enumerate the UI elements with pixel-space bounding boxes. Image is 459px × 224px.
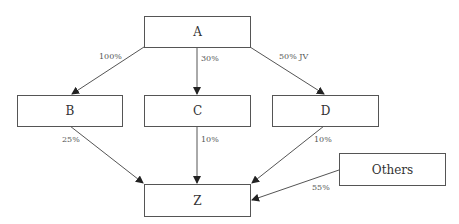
node-a-label: A <box>193 25 202 39</box>
node-d-label: D <box>321 104 331 118</box>
node-others: Others <box>339 153 446 186</box>
edge-label-c-z: 10% <box>201 135 219 144</box>
node-c: C <box>144 95 251 127</box>
node-z-label: Z <box>193 194 201 208</box>
edge-label-a-c: 30% <box>201 54 219 63</box>
node-z: Z <box>144 184 251 217</box>
node-c-label: C <box>193 104 202 118</box>
node-d: D <box>272 95 379 127</box>
edge-label-a-b: 100% <box>99 52 122 61</box>
edge-label-others-z: 55% <box>312 183 330 192</box>
edge-label-a-d: 50% JV <box>279 52 308 61</box>
edge-b-z <box>70 126 143 183</box>
node-a: A <box>144 16 251 48</box>
edge-label-d-z: 10% <box>314 135 332 144</box>
edge-label-b-z: 25% <box>62 135 80 144</box>
node-b-label: B <box>66 104 75 118</box>
node-others-label: Others <box>372 163 413 177</box>
node-b: B <box>17 95 123 127</box>
